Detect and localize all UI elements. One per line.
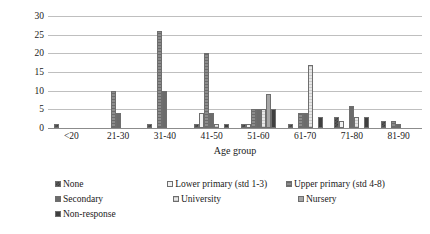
bar-group [235, 16, 282, 128]
legend-item-label: None [63, 178, 84, 190]
bar-group-bars [235, 16, 282, 128]
legend-item[interactable]: Secondary [55, 193, 173, 205]
bar [364, 117, 369, 128]
bar-group-bars [142, 16, 189, 128]
legend-swatch-icon [55, 181, 61, 187]
bar [116, 113, 121, 128]
legend-row: Non-response [55, 206, 385, 221]
y-axis-tick-label: 10 [35, 86, 45, 96]
legend-item-label: University [181, 193, 221, 205]
legend-item[interactable]: None [55, 178, 167, 190]
x-axis-tick-labels: <2021-3031-4041-5051-6061-7071-8081-90 [48, 130, 422, 142]
bar [162, 91, 167, 128]
legend-swatch-icon [55, 196, 61, 202]
y-axis-tick-label: 20 [35, 48, 45, 58]
x-axis-tick-label: 41-50 [188, 130, 235, 142]
bar-group-bars [329, 16, 376, 128]
legend-item-label: Non-response [63, 208, 116, 220]
x-axis-tick-label: 81-90 [375, 130, 422, 142]
legend-item[interactable]: University [173, 193, 298, 205]
legend-item-label: Secondary [63, 193, 103, 205]
legend-item[interactable]: Upper primary (std 4-8) [286, 178, 385, 190]
bar-group [188, 16, 235, 128]
bar-group-bars [95, 16, 142, 128]
bar-group-bars [188, 16, 235, 128]
y-axis-tick-label: 30 [35, 11, 45, 21]
bar [54, 124, 59, 128]
bar-group-bars [375, 16, 422, 128]
bar-group [142, 16, 189, 128]
legend-swatch-icon [167, 181, 173, 187]
legend-row: SecondaryUniversityNursery [55, 191, 385, 206]
legend-item-label: Upper primary (std 4-8) [294, 178, 385, 190]
bar-groups [48, 16, 422, 128]
bar [354, 117, 359, 128]
bar [147, 124, 152, 128]
x-axis-tick-label: <20 [48, 130, 95, 142]
legend-swatch-icon [55, 211, 61, 217]
x-axis-tick-label: 61-70 [282, 130, 329, 142]
bar-group-bars [48, 16, 95, 128]
legend-swatch-icon [298, 196, 304, 202]
legend-item-label: Nursery [306, 193, 337, 205]
bar [288, 124, 293, 128]
legend-item[interactable]: Nursery [298, 193, 337, 205]
legend-item[interactable]: Lower primary (std 1-3) [167, 178, 286, 190]
legend-swatch-icon [173, 196, 179, 202]
bar [339, 121, 344, 128]
plot-area: 302520151050 [48, 16, 422, 128]
bar-chart: Number of respondents 302520151050 <2021… [0, 0, 430, 234]
chart-legend: NoneLower primary (std 1-3)Upper primary… [55, 176, 385, 221]
bar [308, 65, 313, 128]
x-axis-title: Age group [48, 145, 422, 157]
bar-group [282, 16, 329, 128]
y-axis-tick-label: 25 [35, 30, 45, 40]
y-axis-tick-label: 5 [39, 104, 44, 114]
bar [271, 109, 276, 128]
x-axis-tick-label: 21-30 [95, 130, 142, 142]
x-axis-tick-label: 71-80 [329, 130, 376, 142]
y-axis-tick-label: 15 [35, 67, 45, 77]
gridline: 0 [48, 128, 422, 129]
legend-item-label: Lower primary (std 1-3) [175, 178, 267, 190]
legend-item[interactable]: Non-response [55, 208, 173, 220]
bar [214, 124, 219, 128]
bar-group [329, 16, 376, 128]
y-axis-tick-label: 0 [39, 123, 44, 133]
legend-swatch-icon [286, 181, 292, 187]
bar-group [375, 16, 422, 128]
legend-row: NoneLower primary (std 1-3)Upper primary… [55, 176, 385, 191]
bar [381, 121, 386, 128]
x-axis-tick-label: 31-40 [142, 130, 189, 142]
bar [224, 124, 229, 128]
bar [318, 117, 323, 128]
bar-group-bars [282, 16, 329, 128]
bar [396, 124, 401, 128]
bar-group [48, 16, 95, 128]
x-axis-tick-label: 51-60 [235, 130, 282, 142]
bar-group [95, 16, 142, 128]
